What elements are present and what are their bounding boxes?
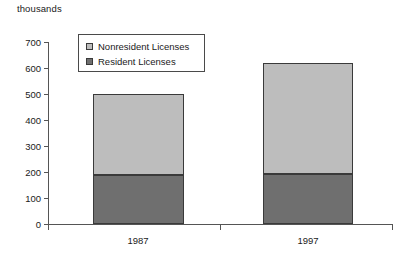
y-tick-label-500: 500 [7, 89, 41, 100]
x-category-label-1987: 1987 [127, 235, 148, 246]
y-tick-label-0: 0 [7, 219, 41, 230]
bar-1997 [263, 63, 353, 224]
y-tick-label-200: 200 [7, 167, 41, 178]
y-tick-label-300: 300 [7, 141, 41, 152]
bar-1987 [93, 94, 184, 224]
bar-1987-segment-nonresident [93, 94, 184, 175]
legend: Nonresident Licenses Resident Licenses [78, 34, 205, 72]
x-tick-start [48, 225, 49, 230]
y-axis-line [48, 42, 49, 224]
y-tick-label-700: 700 [7, 37, 41, 48]
bar-1997-segment-resident [263, 174, 353, 224]
y-tick-label-600: 600 [7, 63, 41, 74]
bar-1997-segment-nonresident [263, 63, 353, 174]
legend-item-resident: Resident Licenses [86, 54, 204, 69]
legend-item-nonresident: Nonresident Licenses [86, 39, 204, 54]
x-tick-mid [220, 225, 221, 230]
x-category-label-1997: 1997 [297, 235, 318, 246]
chart-screenshot: thousands 0 100 200 300 400 500 [0, 0, 416, 262]
y-tick-label-400: 400 [7, 115, 41, 126]
legend-swatch-resident-icon [86, 58, 93, 65]
legend-swatch-nonresident-icon [86, 43, 93, 50]
y-tick-label-100: 100 [7, 193, 41, 204]
legend-label-resident: Resident Licenses [98, 57, 176, 67]
x-tick-end [392, 225, 393, 230]
legend-label-nonresident: Nonresident Licenses [98, 42, 189, 52]
y-axis-units-label: thousands [17, 3, 62, 14]
bar-1987-segment-resident [93, 175, 184, 224]
